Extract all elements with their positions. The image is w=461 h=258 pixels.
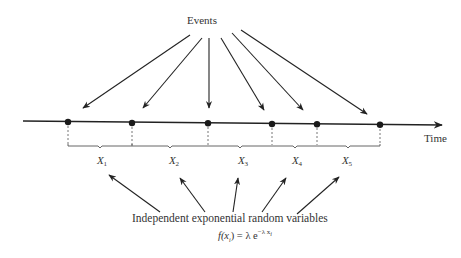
variable-label-x3: X3 <box>238 154 248 168</box>
brace-2 <box>132 146 208 148</box>
brace-1 <box>68 144 132 148</box>
caption-label: Independent exponential random variables <box>132 212 328 224</box>
brace-4 <box>272 146 317 148</box>
event-arrow-2 <box>143 38 202 108</box>
density-formula: f(xi) = λ e−λ xi <box>218 228 272 243</box>
variable-label-x1: X1 <box>97 154 107 168</box>
variable-label-x2: X2 <box>169 154 179 168</box>
interval-braces <box>68 144 380 148</box>
event-arrow-4 <box>221 38 264 110</box>
variable-arrow-5 <box>297 177 339 214</box>
time-axis-label: Time <box>424 132 447 144</box>
event-dot-6 <box>377 122 383 128</box>
event-dot-5 <box>314 121 320 127</box>
event-dot-1 <box>65 119 71 125</box>
variable-arrow-1 <box>109 175 160 212</box>
variable-arrows <box>109 175 339 214</box>
event-dot-4 <box>269 121 275 127</box>
events-label: Events <box>187 14 217 26</box>
event-arrow-5 <box>232 33 303 110</box>
event-dot-3 <box>205 120 211 126</box>
variable-arrow-4 <box>262 178 286 212</box>
variable-label-x5: X5 <box>342 154 352 168</box>
dashed-guides <box>68 126 380 145</box>
event-dot-2 <box>129 120 135 126</box>
variable-arrow-3 <box>233 178 238 212</box>
variable-label-x4: X4 <box>292 154 302 168</box>
brace-5 <box>317 144 380 148</box>
variable-arrow-2 <box>180 178 205 212</box>
event-arrows <box>83 30 367 114</box>
brace-3 <box>208 146 272 148</box>
event-arrow-6 <box>241 30 367 114</box>
